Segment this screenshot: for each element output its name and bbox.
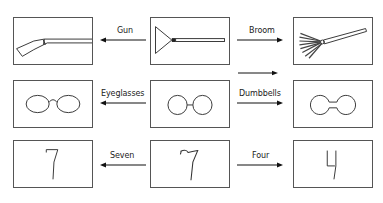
- eyeglasses-icon: [14, 81, 92, 127]
- four-label: Four: [252, 151, 269, 160]
- arrow-to-seven: [100, 161, 146, 169]
- ambiguous-broom-gun-box: [150, 17, 230, 65]
- dumbbells-label: Dumbbells: [239, 89, 281, 98]
- broom-ambiguous-icon: [151, 18, 229, 64]
- eyeglasses-label: Eyeglasses: [101, 89, 144, 98]
- four-icon: [294, 141, 372, 187]
- ambiguous-seven-four-box: [150, 140, 230, 188]
- seven-icon: [14, 141, 92, 187]
- broom-label: Broom: [249, 26, 275, 35]
- gun-icon: [14, 18, 92, 64]
- ambiguous-seven-icon: [151, 141, 229, 187]
- dumbbells-icon: [294, 81, 372, 127]
- broom-icon: [294, 18, 372, 64]
- two-circles-icon: [151, 81, 229, 127]
- arrow-to-dumbbells: [237, 99, 283, 107]
- gun-label: Gun: [117, 26, 133, 35]
- arrow-to-broom: [237, 36, 283, 44]
- dumbbells-box: [293, 80, 373, 128]
- seven-box: [13, 140, 93, 188]
- arrow-to-eyeglasses: [100, 99, 146, 107]
- four-box: [293, 140, 373, 188]
- seven-label: Seven: [110, 151, 134, 160]
- gun-box: [13, 17, 93, 65]
- arrow-to-gun: [100, 36, 146, 44]
- arrow-to-four: [237, 161, 283, 169]
- ambiguous-circles-box: [150, 80, 230, 128]
- broom-box: [293, 17, 373, 65]
- eyeglasses-box: [13, 80, 93, 128]
- extra-right-arrow: [238, 69, 278, 77]
